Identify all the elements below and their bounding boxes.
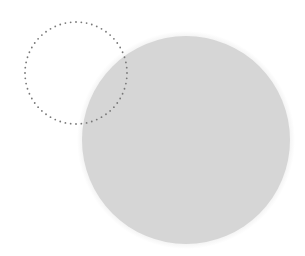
marquee-dot xyxy=(41,110,43,112)
marquee-dot xyxy=(113,106,115,108)
marquee-dot xyxy=(27,88,29,90)
marquee-dot xyxy=(34,42,36,44)
marquee-dot xyxy=(105,31,107,33)
marquee-dot xyxy=(91,121,93,123)
marquee-dot xyxy=(116,42,118,44)
marquee-dot xyxy=(109,110,111,112)
marquee-dot xyxy=(96,119,98,121)
marquee-dot xyxy=(113,38,115,40)
marquee-dot xyxy=(80,21,82,23)
vector-stage xyxy=(0,0,305,256)
marquee-dot xyxy=(50,28,52,30)
marquee-dot xyxy=(54,26,56,28)
marquee-dot xyxy=(70,21,72,23)
marquee-dot xyxy=(29,51,31,53)
marquee-dot xyxy=(31,47,33,49)
marquee-dot xyxy=(70,123,72,125)
marquee-dot xyxy=(25,83,27,85)
marquee-dot xyxy=(122,93,124,95)
marquee-dot xyxy=(31,98,33,100)
marquee-dot xyxy=(125,83,127,85)
marquee-dot xyxy=(50,116,52,118)
marquee-dot xyxy=(37,38,39,40)
marquee-dot xyxy=(126,77,128,79)
marquee-dot xyxy=(125,62,127,64)
marquee-dot xyxy=(29,93,31,95)
marquee-dot xyxy=(37,106,39,108)
marquee-dot xyxy=(96,26,98,28)
marquee-dot xyxy=(122,51,124,53)
marquee-dot xyxy=(24,77,26,79)
marquee-dot xyxy=(124,88,126,90)
marquee-dot xyxy=(41,34,43,36)
marquee-dot xyxy=(59,24,61,26)
marquee-dot xyxy=(27,56,29,58)
marquee-dot xyxy=(45,113,47,115)
marquee-dot xyxy=(119,47,121,49)
marquee-dot xyxy=(59,121,61,123)
marquee-dot xyxy=(116,102,118,104)
marquee-dot xyxy=(24,72,26,74)
marquee-dot xyxy=(75,21,77,23)
marquee-dot xyxy=(45,31,47,33)
marquee-dot xyxy=(86,122,88,124)
marquee-dot xyxy=(119,98,121,100)
marquee-dot xyxy=(75,123,77,125)
marquee-dot xyxy=(65,22,67,24)
marquee-dot xyxy=(86,22,88,24)
marquee-dot xyxy=(65,122,67,124)
marquee-dot xyxy=(91,24,93,26)
marquee-dot xyxy=(80,123,82,125)
canvas-root xyxy=(0,0,305,256)
marquee-dot xyxy=(105,113,107,115)
marquee-dot xyxy=(24,67,26,69)
marquee-dot xyxy=(109,34,111,36)
marquee-dot xyxy=(54,119,56,121)
marquee-dot xyxy=(126,72,128,74)
marquee-dot xyxy=(126,67,128,69)
marquee-dot xyxy=(101,116,103,118)
marquee-dot xyxy=(34,102,36,104)
marquee-dot xyxy=(101,28,103,30)
filled-circle-shape[interactable] xyxy=(82,36,290,244)
marquee-dot xyxy=(124,56,126,58)
marquee-dot xyxy=(25,62,27,64)
